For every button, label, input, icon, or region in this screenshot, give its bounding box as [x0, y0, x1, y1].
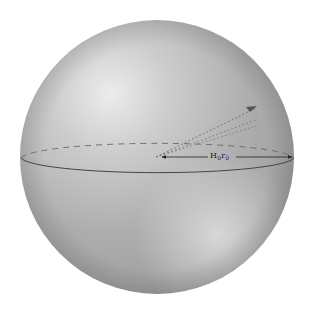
- hubble-sphere-diagram: H0r0: [0, 0, 309, 309]
- sphere-figure: [0, 0, 309, 309]
- label-r-sub: 0: [225, 154, 229, 161]
- radius-label: H0r0: [210, 152, 229, 161]
